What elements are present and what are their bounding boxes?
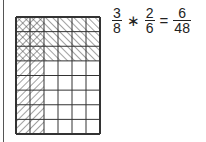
left-border-line (3, 0, 4, 142)
fraction-result: 6 48 (173, 7, 191, 34)
numerator: 6 (177, 7, 187, 19)
denominator: 8 (112, 22, 122, 34)
numerator: 3 (112, 7, 122, 19)
denominator: 48 (173, 22, 191, 34)
denominator: 6 (145, 22, 155, 34)
fraction-left: 3 8 (112, 7, 122, 34)
numerator: 2 (145, 7, 155, 19)
fraction-right: 2 6 (145, 7, 155, 34)
equals-operator: = (160, 12, 169, 29)
multiply-operator: ∗ (127, 12, 140, 30)
fraction-grid (15, 16, 101, 135)
equation: 3 8 ∗ 2 6 = 6 48 (112, 7, 191, 34)
